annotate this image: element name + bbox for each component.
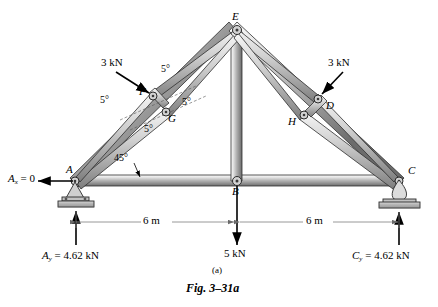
figure-caption: Fig. 3–31a: [186, 282, 239, 294]
dimension-label-right: 6 m: [306, 215, 323, 226]
angle-label-5-bottom: 5°: [144, 124, 153, 134]
joint-label-D: D: [326, 100, 334, 111]
figure-canvas: A B C E F G D H 45° 5° 5° 5° 5° 3 kN 3 k…: [0, 0, 438, 307]
angle-label-5-left: 5°: [100, 95, 109, 105]
member-EB: [231, 29, 242, 181]
angle-label-5-top: 5°: [161, 64, 170, 74]
figure-part-label: (a): [212, 266, 222, 275]
joint-label-A: A: [66, 164, 73, 175]
joint-label-C: C: [408, 165, 415, 176]
joint-label-H: H: [288, 116, 296, 127]
joint-label-G: G: [168, 113, 176, 124]
angle-label-5-right: 5°: [182, 97, 191, 107]
joint-label-F: F: [139, 86, 146, 97]
reaction-Ay-subscript: y: [49, 255, 52, 263]
reaction-arrows: [38, 181, 399, 245]
reaction-Ay-value: = 4.62 kN: [55, 249, 99, 261]
reaction-Ay-symbol: A: [42, 249, 49, 261]
reaction-Ax-value: = 0: [21, 172, 35, 184]
reaction-label-Ax: Ax = 0: [8, 173, 35, 186]
reaction-Ax-symbol: A: [8, 172, 15, 184]
member-DE: [231, 27, 318, 102]
load-label-5kN: 5 kN: [224, 248, 246, 259]
reaction-Ax-subscript: x: [15, 178, 18, 186]
reaction-Cy-subscript: y: [359, 255, 362, 263]
joint-label-E: E: [232, 11, 239, 22]
reaction-label-Ay: Ay = 4.62 kN: [42, 250, 99, 263]
truss-members: [70, 22, 404, 189]
member-AB: [75, 175, 237, 186]
reaction-label-Cy: Cy = 4.62 kN: [352, 250, 410, 263]
member-BC: [237, 175, 399, 186]
reaction-Cy-value: = 4.62 kN: [365, 249, 409, 261]
angle-label-45: 45°: [114, 153, 128, 163]
load-label-3kN-left: 3 kN: [101, 57, 123, 68]
dimension-label-left: 6 m: [143, 215, 160, 226]
arrow-3kN-right: [322, 72, 343, 94]
load-label-3kN-right: 3 kN: [328, 57, 350, 68]
joint-label-B: B: [232, 186, 239, 197]
